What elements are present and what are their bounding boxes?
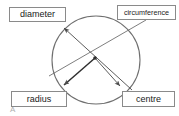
label-diameter-text: diameter <box>20 10 55 19</box>
circle-parts-diagram: diameter circumference radius centre A <box>0 0 179 116</box>
centre-pointer-line <box>95 58 120 86</box>
diameter-line <box>64 28 132 90</box>
circumference-leader-line <box>49 20 146 76</box>
label-radius: radius <box>11 91 67 107</box>
label-circumference-text: circumference <box>124 9 169 16</box>
label-radius-text: radius <box>27 95 52 104</box>
centre-point-dot <box>93 56 97 60</box>
corner-marker-letter: A <box>10 106 15 114</box>
label-centre: centre <box>122 91 175 107</box>
label-centre-text: centre <box>136 95 161 104</box>
label-diameter: diameter <box>9 7 66 22</box>
label-circumference: circumference <box>117 5 176 20</box>
radius-line <box>64 58 95 85</box>
